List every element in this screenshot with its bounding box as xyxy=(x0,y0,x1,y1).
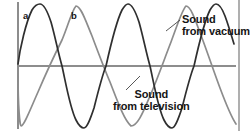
waveform-figure: a b Sound from vacuum Sound from televis… xyxy=(0,0,250,131)
callout-television-line-2: from television xyxy=(113,101,190,113)
wave-label-a: a xyxy=(23,11,28,21)
callout-sound-from-vacuum: Sound from vacuum xyxy=(182,14,250,37)
callout-television-line-1: Sound xyxy=(135,88,169,100)
callout-vacuum-line-1: Sound xyxy=(182,13,216,25)
callout-vacuum-line-2: from vacuum xyxy=(182,26,250,38)
wave-label-b: b xyxy=(71,11,77,21)
callout-sound-from-television: Sound from television xyxy=(113,89,190,112)
